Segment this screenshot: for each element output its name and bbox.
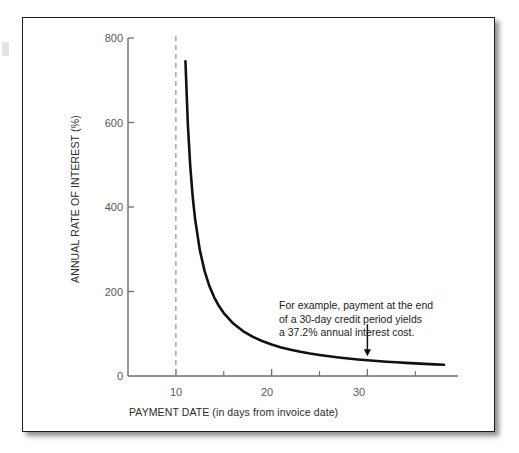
annotation-arrow-head [364,349,371,356]
y-tick-label-800: 800 [91,32,123,44]
annotation-callout: For example, payment at the end of a 30-… [279,299,433,340]
annotation-line-2: of a 30-day credit period yields [279,313,433,327]
chart-canvas [23,18,493,430]
figure-frame: 800 600 400 200 0 10 20 30 ANNUAL RATE O… [22,17,495,432]
y-tick-label-200: 200 [91,286,123,298]
x-tick-label-20: 20 [256,386,278,398]
y-tick-label-400: 400 [91,201,123,213]
annotation-line-3: a 37.2% annual interest cost. [279,326,433,340]
x-axis-title: PAYMENT DATE (in days from invoice date) [129,406,338,418]
x-tick-label-30: 30 [348,386,370,398]
y-tick-label-600: 600 [91,117,123,129]
y-axis-title: ANNUAL RATE OF INTEREST (%) [69,115,81,283]
x-tick-label-10: 10 [165,386,187,398]
y-tick-label-0: 0 [91,370,123,382]
annotation-line-1: For example, payment at the end [279,299,433,313]
page-scan-artifact [2,42,9,56]
